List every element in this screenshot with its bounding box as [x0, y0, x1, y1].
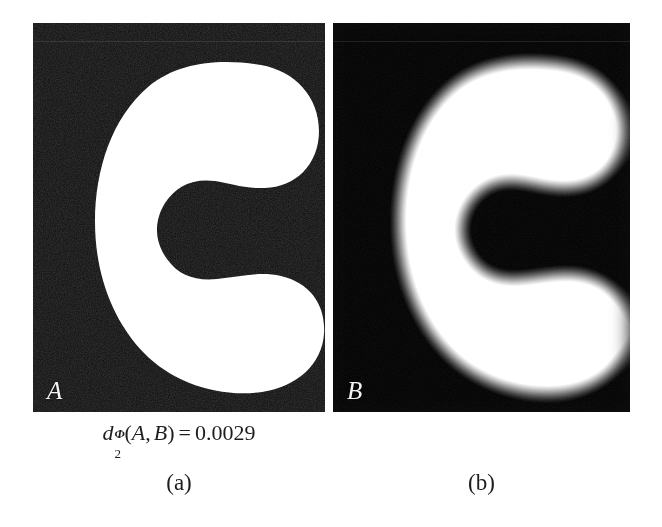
formula-superscript: Φ: [115, 426, 125, 442]
distance-formula: dΦ2(A,B)=0.0029: [33, 420, 325, 446]
formula-arg-a: A: [132, 420, 145, 445]
shape-b: [333, 23, 630, 412]
panel-a-letter: A: [47, 378, 62, 403]
panel-b-letter: B: [347, 378, 362, 403]
formula-close-paren: ): [167, 420, 174, 445]
shape-a: [33, 23, 325, 412]
caption-b: (b): [333, 470, 630, 496]
caption-a: (a): [33, 470, 325, 496]
formula-equals: =: [175, 420, 195, 445]
image-panel-a: A: [33, 23, 325, 412]
formula-symbol: d: [103, 420, 114, 445]
formula-subscript: 2: [115, 446, 122, 462]
formula-comma: ,: [145, 420, 151, 445]
figure-container: A B dΦ2(A,B)=0.0029 (a) (b: [0, 0, 662, 527]
formula-value: 0.0029: [195, 420, 256, 445]
formula-arg-b: B: [154, 420, 167, 445]
formula-open-paren: (: [125, 420, 132, 445]
image-panel-b: B: [333, 23, 630, 412]
